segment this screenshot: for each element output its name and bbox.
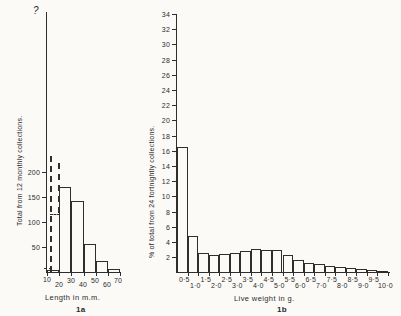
bar-1b bbox=[230, 253, 241, 272]
y-tick-1b bbox=[172, 136, 176, 137]
y-tick-1b bbox=[172, 181, 176, 182]
bar-1b bbox=[251, 249, 262, 272]
bar-1b bbox=[177, 147, 188, 272]
x-tick-1b bbox=[240, 272, 241, 276]
y-tick-1b bbox=[172, 75, 176, 76]
y-tick-1b bbox=[172, 196, 176, 197]
panel-caption-1b: 1b bbox=[277, 305, 287, 314]
y-tick-1b bbox=[172, 105, 176, 106]
x-tick-label-1b: 6·0 bbox=[295, 282, 306, 289]
bar-1b bbox=[377, 271, 388, 272]
x-tick-label-1b: 0·5 bbox=[179, 276, 190, 283]
bar-1b bbox=[367, 270, 378, 272]
y-tick-1b bbox=[172, 257, 176, 258]
y-tick-label-1b: 26 bbox=[152, 72, 170, 79]
y-tick-1b bbox=[172, 60, 176, 61]
figure-container: ? 200 150 100 50 10 bbox=[0, 0, 401, 316]
bar-1b bbox=[356, 269, 367, 272]
x-tick-1b bbox=[261, 272, 262, 276]
bar-1b bbox=[198, 253, 209, 272]
x-tick-1b bbox=[304, 272, 305, 276]
bar-1b bbox=[314, 264, 325, 272]
x-tick-label-1b: 3·5 bbox=[243, 276, 254, 283]
bar-1b bbox=[346, 268, 357, 272]
x-tick-label-1b: 8·0 bbox=[337, 282, 348, 289]
y-tick-1b bbox=[172, 14, 176, 15]
y-tick-label-1b: 20 bbox=[152, 117, 170, 124]
y-tick-1b bbox=[172, 29, 176, 30]
x-tick-1b bbox=[198, 272, 199, 276]
x-tick-1b bbox=[388, 272, 389, 276]
y-tick-1b bbox=[172, 120, 176, 121]
y-tick-label-1b: 32 bbox=[152, 26, 170, 33]
x-tick-label-1b: 2·5 bbox=[222, 276, 233, 283]
panel-1b: 34 32 30 28 26 24 22 20 18 16 14 12 10 8… bbox=[0, 0, 401, 316]
y-tick-1b bbox=[172, 44, 176, 45]
bar-1b bbox=[325, 266, 336, 272]
bar-1b bbox=[272, 250, 283, 272]
x-tick-label-1b: 2·0 bbox=[211, 282, 222, 289]
x-tick-label-1b: 5·0 bbox=[274, 282, 285, 289]
bar-1b bbox=[335, 267, 346, 272]
x-tick-label-1b: 6·5 bbox=[306, 276, 317, 283]
bar-1b bbox=[293, 260, 304, 272]
y-tick-1b bbox=[172, 212, 176, 213]
bar-1b bbox=[188, 236, 199, 272]
y-tick-label-1b: 22 bbox=[152, 102, 170, 109]
bar-1b bbox=[240, 251, 251, 272]
y-tick-1b bbox=[172, 166, 176, 167]
x-tick-label-1b: 3·0 bbox=[232, 282, 243, 289]
x-axis-title-1b: Live weight in g. bbox=[234, 294, 295, 303]
x-tick-label-1b: 1·5 bbox=[201, 276, 212, 283]
y-tick-1b bbox=[172, 242, 176, 243]
x-tick-label-1b: 9·0 bbox=[358, 282, 369, 289]
y-tick-label-1b: 28 bbox=[152, 57, 170, 64]
y-tick-1b bbox=[172, 151, 176, 152]
x-tick-label-1b: 4·5 bbox=[264, 276, 275, 283]
x-tick-label-1b: 4·0 bbox=[253, 282, 264, 289]
x-tick-label-1b: 8·5 bbox=[348, 276, 359, 283]
bar-1b bbox=[209, 255, 220, 273]
y-tick-1b bbox=[172, 90, 176, 91]
y-tick-label-1b: 34 bbox=[152, 11, 170, 18]
x-tick-1b bbox=[219, 272, 220, 276]
x-tick-label-1b: 10·0 bbox=[378, 282, 393, 289]
x-tick-label-1b: 7·5 bbox=[327, 276, 338, 283]
y-axis-title-1b: % of total from 24 fortnightly collectio… bbox=[148, 126, 155, 258]
bar-1b bbox=[304, 263, 315, 273]
y-tick-label-1b: 24 bbox=[152, 87, 170, 94]
bar-1b bbox=[283, 255, 294, 272]
x-tick-label-1b: 1·0 bbox=[190, 282, 201, 289]
bar-1b bbox=[261, 250, 272, 272]
y-tick-label-1b: 30 bbox=[152, 41, 170, 48]
x-tick-label-1b: 5·5 bbox=[285, 276, 296, 283]
x-tick-1b bbox=[283, 272, 284, 276]
x-tick-label-1b: 7·0 bbox=[316, 282, 327, 289]
bar-1b bbox=[219, 254, 230, 272]
y-tick-1b bbox=[172, 227, 176, 228]
